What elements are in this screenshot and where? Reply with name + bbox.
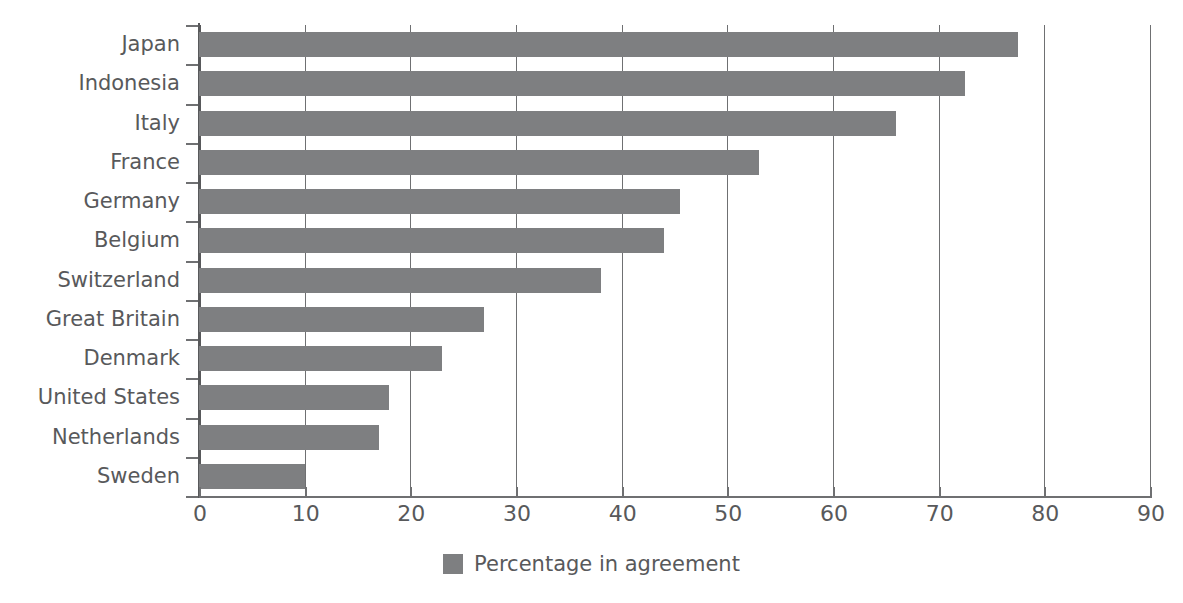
bar-row [199,104,1150,143]
bar-row [199,339,1150,378]
x-tick-label-50: 50 [714,501,742,526]
bar-netherlands[interactable] [199,425,379,450]
x-tick-label-80: 80 [1031,501,1059,526]
y-tick-3 [186,143,198,145]
y-tick-4 [186,182,198,184]
bar-belgium[interactable] [199,228,664,253]
x-tick-90 [1150,487,1152,498]
bar-italy[interactable] [199,111,896,136]
y-axis-label-netherlands: Netherlands [52,418,180,457]
chart-legend: Percentage in agreement [0,552,1183,576]
bar-chart: JapanIndonesiaItalyFranceGermanyBelgiumS… [0,0,1183,603]
bar-united-states[interactable] [199,385,389,410]
bar-row [199,261,1150,300]
x-tick-40 [622,487,624,498]
legend-swatch-icon [443,554,463,574]
y-tick-5 [186,221,198,223]
bar-sweden[interactable] [199,464,305,489]
y-tick-12 [186,496,198,498]
x-tick-20 [410,487,412,498]
y-tick-10 [186,418,198,420]
bar-indonesia[interactable] [199,71,965,96]
x-tick-10 [305,487,307,498]
y-tick-6 [186,261,198,263]
bar-switzerland[interactable] [199,268,601,293]
y-axis-labels: JapanIndonesiaItalyFranceGermanyBelgiumS… [0,25,190,496]
x-tick-label-10: 10 [292,501,320,526]
bar-great-britain[interactable] [199,307,484,332]
y-axis-label-denmark: Denmark [83,339,180,378]
y-axis-label-japan: Japan [121,25,180,64]
y-axis-label-united-states: United States [38,378,180,417]
bar-germany[interactable] [199,189,680,214]
bar-france[interactable] [199,150,759,175]
y-tick-7 [186,300,198,302]
x-tick-label-60: 60 [820,501,848,526]
x-tick-label-70: 70 [926,501,954,526]
y-tick-8 [186,339,198,341]
y-axis-label-indonesia: Indonesia [78,64,180,103]
x-tick-label-40: 40 [609,501,637,526]
y-axis-label-germany: Germany [83,182,180,221]
y-axis-label-switzerland: Switzerland [58,261,181,300]
x-tick-70 [939,487,941,498]
y-tick-0 [186,25,198,27]
y-tick-2 [186,104,198,106]
bar-series [199,25,1150,496]
gridline-90 [1150,25,1151,496]
y-axis-label-great-britain: Great Britain [46,300,180,339]
bar-row [199,300,1150,339]
bar-row [199,182,1150,221]
y-axis-label-sweden: Sweden [97,457,180,496]
x-axis-line [199,496,1151,498]
x-tick-50 [727,487,729,498]
x-tick-label-20: 20 [397,501,425,526]
x-tick-30 [516,487,518,498]
y-tick-1 [186,64,198,66]
bar-row [199,418,1150,457]
bar-row [199,457,1150,496]
legend-label: Percentage in agreement [474,552,740,576]
y-axis-label-italy: Italy [134,104,180,143]
plot-area [199,25,1150,496]
bar-row [199,143,1150,182]
bar-japan[interactable] [199,32,1018,57]
x-tick-label-90: 90 [1137,501,1165,526]
x-tick-80 [1044,487,1046,498]
x-tick-label-0: 0 [193,501,207,526]
bar-row [199,25,1150,64]
y-axis-label-belgium: Belgium [94,221,180,260]
bar-denmark[interactable] [199,346,442,371]
bar-row [199,221,1150,260]
y-tick-11 [186,457,198,459]
x-tick-60 [833,487,835,498]
bar-row [199,64,1150,103]
y-tick-9 [186,378,198,380]
y-axis-label-france: France [110,143,180,182]
x-tick-0 [199,487,201,498]
bar-row [199,378,1150,417]
x-tick-label-30: 30 [503,501,531,526]
